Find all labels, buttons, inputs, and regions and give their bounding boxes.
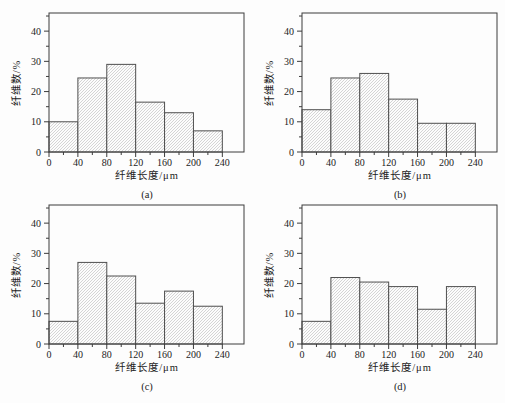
subplot-b: 04080120160200240010203040 纤维数/% 纤维长度/μm…	[253, 0, 505, 201]
histogram-bar	[165, 113, 194, 152]
histogram-bar	[49, 321, 78, 344]
x-tick-label: 80	[355, 349, 365, 360]
histogram-bar	[418, 309, 447, 344]
subplot-caption: (d)	[394, 381, 406, 392]
histogram-bar	[193, 131, 222, 152]
histogram-bar	[360, 282, 389, 344]
x-tick-label: 0	[47, 157, 52, 168]
y-tick-label: 30	[284, 56, 294, 67]
histogram-bar	[302, 110, 331, 152]
histogram-bar	[165, 291, 194, 344]
y-tick-label: 20	[31, 278, 41, 289]
histogram-bar	[331, 78, 360, 152]
x-axis-label: 纤维长度/μm	[368, 167, 432, 182]
histogram-bar	[107, 276, 136, 344]
x-tick-label: 240	[215, 157, 230, 168]
y-tick-label: 10	[31, 308, 41, 319]
x-tick-label: 0	[300, 157, 305, 168]
y-tick-label: 20	[31, 86, 41, 97]
x-tick-label: 80	[102, 157, 112, 168]
y-tick-label: 0	[289, 339, 294, 350]
x-tick-label: 240	[215, 349, 230, 360]
x-axis-label: 纤维长度/μm	[115, 359, 179, 374]
x-tick-label: 200	[439, 157, 454, 168]
x-tick-label: 200	[186, 157, 201, 168]
x-axis-label: 纤维长度/μm	[368, 359, 432, 374]
subplot-d: 04080120160200240010203040 纤维数/% 纤维长度/μm…	[253, 192, 505, 393]
histogram-bar	[78, 78, 107, 152]
y-tick-label: 40	[284, 218, 294, 229]
y-tick-label: 20	[284, 86, 294, 97]
y-axis-label: 纤维数/%	[261, 60, 276, 107]
subplot-c: 04080120160200240010203040 纤维数/% 纤维长度/μm…	[0, 192, 252, 393]
subplot-a: 04080120160200240010203040 纤维数/% 纤维长度/μm…	[0, 0, 252, 201]
histogram-bar	[78, 262, 107, 344]
y-tick-label: 10	[31, 116, 41, 127]
x-tick-label: 80	[355, 157, 365, 168]
x-tick-label: 240	[468, 157, 483, 168]
histogram-bar	[302, 321, 331, 344]
x-tick-label: 240	[468, 349, 483, 360]
fiber-length-histogram-figure: 04080120160200240010203040 纤维数/% 纤维长度/μm…	[0, 0, 505, 403]
x-tick-label: 80	[102, 349, 112, 360]
y-tick-label: 0	[289, 147, 294, 158]
y-tick-label: 40	[31, 218, 41, 229]
y-tick-label: 0	[36, 339, 41, 350]
histogram-bar	[360, 73, 389, 152]
y-tick-label: 30	[31, 56, 41, 67]
histogram-bar	[389, 99, 418, 152]
x-tick-label: 40	[73, 157, 83, 168]
y-tick-label: 30	[284, 248, 294, 259]
histogram-bar	[136, 102, 165, 152]
histogram-bar	[418, 123, 447, 152]
histogram-bar	[136, 303, 165, 344]
histogram-bar	[446, 287, 475, 344]
x-axis-label: 纤维长度/μm	[115, 167, 179, 182]
y-axis-label: 纤维数/%	[261, 252, 276, 299]
histogram-bar	[107, 64, 136, 152]
y-tick-label: 0	[36, 147, 41, 158]
y-tick-label: 10	[284, 116, 294, 127]
x-tick-label: 200	[439, 349, 454, 360]
y-tick-label: 40	[31, 26, 41, 37]
histogram-bar	[446, 123, 475, 152]
y-tick-label: 40	[284, 26, 294, 37]
y-tick-label: 20	[284, 278, 294, 289]
histogram-bar	[331, 278, 360, 344]
x-tick-label: 200	[186, 349, 201, 360]
subplot-caption: (c)	[141, 381, 153, 392]
x-tick-label: 40	[73, 349, 83, 360]
x-tick-label: 40	[326, 349, 336, 360]
histogram-bar	[193, 306, 222, 344]
x-tick-label: 0	[47, 349, 52, 360]
x-tick-label: 40	[326, 157, 336, 168]
x-tick-label: 0	[300, 349, 305, 360]
y-tick-label: 10	[284, 308, 294, 319]
histogram-bar	[49, 122, 78, 152]
y-axis-label: 纤维数/%	[8, 60, 23, 107]
y-tick-label: 30	[31, 248, 41, 259]
histogram-bar	[389, 287, 418, 344]
y-axis-label: 纤维数/%	[8, 252, 23, 299]
